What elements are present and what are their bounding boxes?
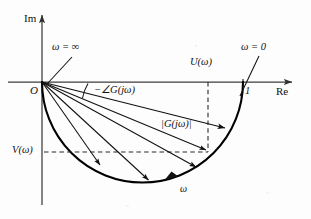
real-part-label: U(ω) [190, 57, 212, 68]
imaginary-part-label: V(ω) [12, 145, 33, 156]
omega-zero-label: ω = 0 [241, 42, 266, 53]
leader-lines-group [47, 56, 259, 96]
omega-infinity-leader [47, 57, 72, 84]
magnitude-label: |G(jω)| [161, 119, 192, 130]
nyquist-diagram-figure: Im Re O 1 ω = ∞ ω = 0 −∠G(jω) |G(jω)| U(… [0, 0, 311, 219]
imaginary-axis-label: Im [24, 13, 36, 24]
phase-angle-label: −∠G(jω) [94, 85, 135, 96]
nyquist-locus-curve [42, 82, 243, 182]
nyquist-locus-group [42, 82, 243, 182]
nyquist-plot-canvas [0, 0, 311, 219]
real-unit-tick-label: 1 [245, 86, 250, 97]
omega-infinity-label: ω = ∞ [52, 42, 79, 53]
origin-label: O [30, 85, 38, 96]
phase-angle-arc [83, 84, 89, 99]
omega-direction-label: ω [180, 184, 187, 194]
phasor-ray-2 [42, 82, 149, 180]
phase-angle-arc-group [83, 84, 89, 99]
real-axis-label: Re [276, 86, 288, 97]
